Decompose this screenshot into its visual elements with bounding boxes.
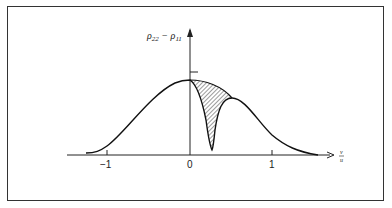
x-tick-label: 0: [187, 159, 193, 170]
y-label-sub: 11: [175, 35, 181, 43]
x-label-denominator: u: [340, 157, 343, 163]
y-axis-label: ρ22 − ρ11: [146, 30, 182, 43]
x-tick-label: 1: [269, 159, 275, 170]
y-label-minus: −: [159, 30, 171, 41]
hatched-hole-region: [190, 80, 232, 150]
chart-canvas: −1 0 1 v u ρ22 − ρ11: [0, 0, 392, 208]
x-tick-label: −1: [100, 159, 112, 170]
x-label-numerator: v: [340, 149, 343, 155]
y-axis-arrow-icon: [187, 28, 193, 37]
